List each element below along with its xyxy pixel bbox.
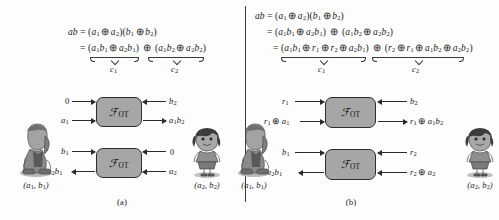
panel-b: ab = (a1⊕a2)(b1⊕b2) = (a1b1⊕a2b1) ⊕ (a1b… — [247, 0, 499, 220]
panel-a-party-right-label: (a2, b2) — [187, 180, 227, 190]
panel-a-ot-box-bottom: ℱOT — [96, 148, 142, 178]
figure-root: ab = (a1⊕a2)(b1⊕b2) = (a1b1⊕a2b1) ⊕ (a1b… — [0, 0, 499, 220]
panel-a-top-in-left-lower-label: a1 — [61, 115, 69, 125]
panel-a-bottom-in-right-upper-arrow — [143, 151, 166, 152]
panel-a-top-in-right-upper-label: b2 — [169, 96, 177, 106]
panel-a-bottom-in-right-lower-label: a2 — [169, 166, 177, 176]
panel-b-top-in-right-upper-label: b2 — [410, 96, 418, 106]
panel-a-caption: (a) — [105, 197, 139, 207]
panel-a-bottom-in-left-upper-arrow — [72, 151, 95, 152]
standing-person-icon — [460, 126, 499, 178]
panel-b-ot-box-top: ℱOT — [325, 97, 376, 128]
panel-b-brace-c2-label: c2 — [412, 65, 419, 74]
panel-a-top-out-right-lower-arrow — [143, 120, 166, 121]
panel-b-bottom-in-right-lower-arrow — [378, 172, 407, 173]
panel-b-bottom-in-right-upper-label: r2 — [410, 147, 417, 157]
panel-b-bottom-in-left-upper-arrow — [295, 152, 324, 153]
panel-a-top-out-right-lower-label: a1b2 — [169, 115, 184, 125]
panel-a-bottom-in-right-lower-arrow — [143, 171, 166, 172]
panel-a-bottom-in-left-upper-label: b1 — [61, 146, 69, 156]
panel-b-party-left-label: (a1, b1) — [232, 180, 276, 190]
panel-b-ot-box-bottom-label: ℱOT — [341, 158, 361, 171]
panel-a-top-in-left-upper-label: 0 — [65, 96, 69, 106]
panel-a-brace-c1-label: c1 — [110, 65, 117, 74]
panel-a-bottom-in-right-upper-label: 0 — [170, 147, 174, 157]
standing-person-icon — [187, 126, 227, 178]
panel-a: ab = (a1⊕a2)(b1⊕b2) = (a1b1⊕a2b1) ⊕ (a1b… — [0, 0, 245, 220]
panel-a-ot-box-top: ℱOT — [96, 97, 142, 127]
panel-a-brace-c2 — [148, 57, 203, 65]
panel-a-brace-c1 — [90, 57, 138, 65]
panel-b-bottom-out-left-lower-arrow — [299, 172, 324, 173]
panel-a-equation-line-2: = (a1b1⊕a2b1) ⊕ (a1b2⊕a2b2) — [80, 42, 206, 53]
panel-b-top-out-right-lower-label: r1⊕a1b2 — [410, 116, 443, 126]
panel-b-top-in-left-lower-arrow — [300, 121, 324, 122]
panel-b-caption: (b) — [334, 197, 368, 207]
panel-b-top-in-left-upper-arrow — [295, 101, 324, 102]
panel-b-brace-c2 — [372, 57, 463, 65]
panel-a-top-in-right-upper-arrow — [143, 101, 166, 102]
panel-b-brace-c1 — [281, 57, 365, 65]
panel-b-bottom-in-right-upper-arrow — [378, 152, 407, 153]
seated-person-icon — [14, 122, 58, 178]
panel-a-party-left-label: (a1, b1) — [14, 180, 58, 190]
panel-a-bottom-out-left-lower-arrow — [72, 171, 95, 172]
panel-b-top-in-left-upper-label: r1 — [282, 96, 289, 106]
panel-b-brace-c1-label: c1 — [318, 65, 325, 74]
seated-person-icon — [232, 122, 276, 178]
panel-a-equation-line-1: ab = (a1⊕a2)(b1⊕b2) — [68, 26, 157, 37]
panel-b-ot-box-top-label: ℱOT — [341, 106, 361, 119]
panel-b-equation-line-2: = (a1b1⊕a2b1) ⊕ (a1b2⊕a2b2) — [267, 26, 393, 37]
panel-b-equation-line-3: = (a1b1⊕r1⊕r2⊕a2b1) ⊕ (r2⊕r1⊕a1b2⊕a2b2) — [273, 42, 473, 53]
panel-b-party-right-label: (a2, b2) — [460, 180, 499, 190]
panel-b-top-out-right-lower-arrow — [378, 121, 407, 122]
panel-b-top-in-right-upper-arrow — [378, 101, 407, 102]
panel-a-ot-box-top-label: ℱOT — [109, 106, 129, 119]
panel-b-equation-line-1: ab = (a1⊕a2)(b1⊕b2) — [255, 10, 344, 21]
panel-a-brace-c2-label: c2 — [171, 65, 178, 74]
panel-b-bottom-in-left-upper-label: b1 — [282, 147, 290, 157]
panel-b-bottom-in-right-lower-label: r2⊕a2 — [410, 167, 435, 177]
panel-a-party-left: (a1, b1) — [14, 122, 58, 178]
panel-a-top-in-left-lower-arrow — [72, 120, 95, 121]
panel-a-ot-box-bottom-label: ℱOT — [109, 157, 129, 170]
panel-a-top-in-left-upper-arrow — [72, 101, 95, 102]
panel-b-party-right: (a2, b2) — [460, 126, 499, 178]
panel-b-ot-box-bottom: ℱOT — [325, 149, 376, 180]
panel-a-party-right: (a2, b2) — [187, 126, 227, 178]
panel-b-party-left: (a1, b1) — [232, 122, 276, 178]
